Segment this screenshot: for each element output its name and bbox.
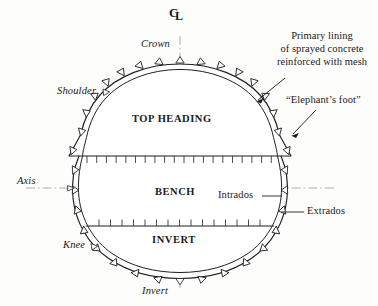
label-axis: Axis [17,175,36,187]
annotation-elephants-foot: “Elephant’s foot” [286,94,361,106]
label-crown: Crown [141,38,170,50]
annotation-extrados: Extrados [307,205,345,217]
primary-lining-line-3: reinforced with mesh [268,55,376,68]
elephants-foot-leader [293,110,316,134]
centre-line-l-glyph: L [175,10,183,22]
label-shoulder: Shoulder [57,85,96,97]
elephants-foot-arrowhead [291,133,299,138]
label-knee: Knee [63,239,85,251]
annotation-intrados: Intrados [218,189,253,201]
centre-line-symbol: C L [169,6,191,30]
primary-lining-leader [258,78,285,100]
annotation-primary-lining: Primary lining of sprayed concrete reinf… [268,29,376,68]
label-invert-stage: INVERT [152,234,196,246]
label-invert-position: Invert [142,285,168,297]
tunnel-cross-section-figure: C L Crown Shoulder Axis Knee Invert TOP … [0,0,378,306]
primary-lining-line-2: of sprayed concrete [268,42,376,55]
label-top-heading: TOP HEADING [132,113,212,125]
primary-lining-line-1: Primary lining [268,29,376,42]
label-bench: BENCH [155,186,195,198]
